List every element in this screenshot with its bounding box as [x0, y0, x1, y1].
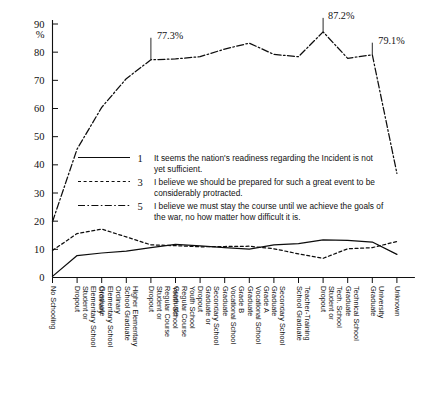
legend: 1It seems the nation's readiness regardi…: [78, 153, 384, 223]
legend-number-1: 1: [137, 153, 142, 164]
x-tick-label: UniversityGraduate: [369, 286, 386, 318]
annotations: 77.3%87.2%79.1%: [151, 10, 405, 60]
legend-number-3: 3: [137, 177, 142, 188]
series-line-1: [53, 240, 397, 277]
legend-entry-5: 5I believe we must stay the course until…: [78, 201, 384, 223]
legend-entry-3: 3I believe we should be prepared for suc…: [78, 177, 375, 199]
axes: [53, 20, 415, 278]
legend-description-line: I believe we should be prepared for such…: [154, 177, 375, 187]
line-chart: 0102030405060708090%No SchoolingOrdinary…: [0, 0, 433, 399]
x-tick-label: Secondary SchoolGraduate: [270, 286, 287, 346]
x-tick-label-line: Dropout: [196, 286, 205, 312]
x-tick-label-line: Graduate: [246, 286, 255, 316]
x-tick-label: Grade BVocational SchoolGraduate: [221, 286, 246, 344]
x-tick-label-line: Unknown: [393, 286, 402, 316]
series-line-3: [53, 229, 397, 258]
x-tick-label-line: School Graduate: [295, 286, 304, 341]
legend-entry-1: 1It seems the nation's readiness regardi…: [78, 153, 374, 175]
legend-number-5: 5: [137, 201, 142, 212]
annotation-label: 79.1%: [378, 35, 405, 46]
y-tick-label: 80: [34, 47, 45, 58]
x-tick-label: Youth SchoolRegular CourseGraduate: [172, 286, 197, 337]
x-tick-label: Secondary SchoolGraduate orDropout: [196, 286, 221, 346]
y-tick-label: 70: [34, 75, 45, 86]
annotation-label: 87.2%: [328, 10, 355, 21]
x-tick-label: OrdinaryElementary SchoolGraduate: [98, 286, 123, 348]
x-tick-label-line: Graduate: [172, 286, 181, 316]
x-tick-label: Technical SchoolGraduate: [344, 286, 361, 341]
y-tick-label: 10: [34, 244, 45, 255]
x-tick-label: Unknown: [393, 286, 402, 316]
x-tick-label-line: Graduate: [369, 286, 378, 316]
legend-description-line: It seems the nation's readiness regardin…: [154, 153, 374, 163]
x-tick-label-line: School Graduate: [123, 286, 132, 341]
annotation-label: 77.3%: [157, 30, 184, 41]
y-tick-label: 30: [34, 188, 45, 199]
chart-container: 0102030405060708090%No SchoolingOrdinary…: [0, 0, 433, 399]
x-tick-label: Higher ElementarySchool Graduate: [123, 286, 140, 347]
x-axis-ticks: No SchoolingOrdinaryElementary SchoolStu…: [49, 278, 402, 348]
x-tick-label: Grade AVocational SchoolGraduate: [246, 286, 271, 344]
legend-description-line: considerably protracted.: [154, 188, 243, 198]
y-tick-label: 60: [34, 103, 45, 114]
x-tick-label-line: Graduate: [270, 286, 279, 316]
legend-description-line: yet sufficient.: [154, 164, 202, 174]
y-tick-label: 0: [39, 272, 44, 283]
x-tick-label: No Schooling: [49, 286, 58, 329]
x-tick-label: Teacher-TrainingSchool Graduate: [295, 286, 312, 341]
x-tick-label-line: Dropout: [319, 286, 328, 312]
x-tick-label-line: Graduate: [221, 286, 230, 316]
y-tick-label: 50: [34, 131, 45, 142]
y-tick-label: 40: [34, 159, 45, 170]
y-axis-ticks: 0102030405060708090%: [34, 19, 58, 284]
legend-description-line: the war, no how matter how difficult it …: [154, 212, 301, 222]
x-tick-label-line: No Schooling: [49, 286, 58, 329]
y-tick-label: 20: [34, 216, 45, 227]
x-tick-label: Tech. SchoolStudent orDropout: [319, 286, 344, 328]
y-tick-label: 90: [34, 19, 45, 30]
x-tick-label-line: Graduate: [344, 286, 353, 316]
y-axis-unit-label: %: [36, 29, 45, 40]
x-tick-label-line: Dropout: [147, 286, 156, 312]
x-tick-label-line: Graduate: [98, 286, 107, 316]
legend-description-line: I believe we must stay the course until …: [154, 201, 384, 211]
x-tick-label-line: Dropout: [73, 286, 82, 312]
